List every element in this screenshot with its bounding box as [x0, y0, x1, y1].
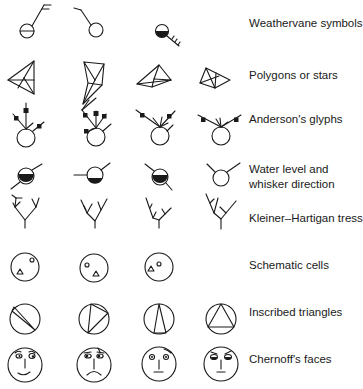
kleiner-hartigan-tree-4 — [206, 194, 236, 229]
chernoff-face-1 — [8, 348, 42, 382]
polygon-star-glyph-3 — [137, 65, 171, 87]
row-label-water-level: Water level and whisker direction — [249, 162, 335, 192]
water-level-glyph-3 — [145, 164, 172, 190]
chernoff-face-2 — [77, 348, 111, 382]
schematic-cell-3 — [145, 253, 173, 281]
inscribed-triangle-3 — [144, 304, 174, 334]
kleiner-hartigan-tree-1 — [12, 195, 39, 228]
anderson-glyph-2 — [82, 98, 111, 146]
kleiner-hartigan-tree-3 — [146, 198, 171, 228]
anderson-glyph-3 — [136, 110, 175, 145]
inscribed-triangle-1 — [10, 304, 40, 334]
polygon-star-glyph-2 — [83, 62, 104, 104]
row-label-water-level-line-2: whisker direction — [249, 177, 335, 192]
kleiner-hartigan-tree-2 — [81, 199, 107, 228]
anderson-glyph-1 — [13, 103, 44, 147]
weathervane-glyph-2 — [74, 8, 103, 37]
chernoff-face-3 — [142, 347, 176, 381]
row-label-polygons: Polygons or stars — [249, 68, 338, 83]
inscribed-triangle-4 — [206, 304, 236, 334]
weathervane-glyph-1 — [20, 5, 51, 38]
water-level-glyph-1 — [11, 164, 42, 189]
row-label-weathervane: Weathervane symbols — [249, 16, 363, 31]
anderson-glyph-4 — [198, 115, 241, 145]
schematic-cell-1 — [11, 253, 39, 281]
row-label-water-level-line-1: Water level and — [249, 162, 335, 177]
row-label-schematic-cells: Schematic cells — [249, 258, 329, 273]
polygon-star-glyph-1 — [8, 61, 34, 94]
inscribed-triangle-2 — [79, 304, 109, 334]
row-label-chernoff: Chernoff's faces — [249, 352, 332, 367]
row-label-anderson: Anderson's glyphs — [249, 112, 343, 127]
polygon-star-glyph-4 — [200, 68, 230, 88]
water-level-glyph-4 — [207, 163, 240, 186]
chernoff-face-4 — [204, 347, 238, 381]
schematic-cell-2 — [80, 254, 108, 282]
water-level-glyph-2 — [74, 163, 110, 184]
weathervane-glyph-3 — [156, 25, 181, 47]
row-label-kleiner-hartigan: Kleiner–Hartigan tress — [249, 211, 363, 226]
row-label-inscribed-triangles: Inscribed triangles — [249, 305, 342, 320]
